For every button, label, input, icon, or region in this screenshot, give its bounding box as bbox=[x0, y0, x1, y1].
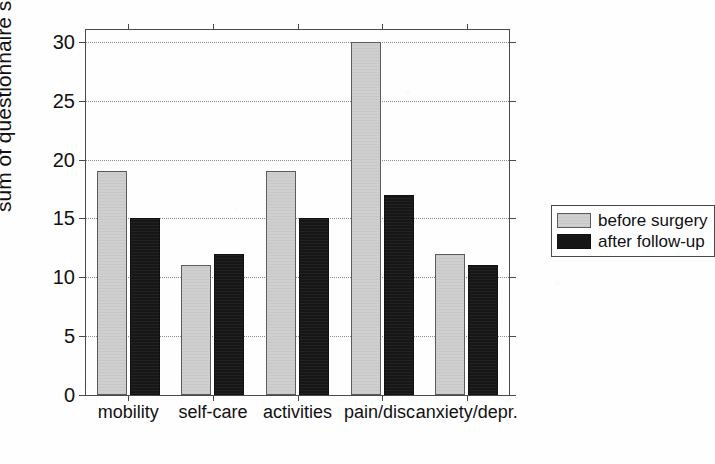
legend-entry-before-surgery: before surgery bbox=[557, 210, 708, 231]
y-axis-tick-right bbox=[509, 336, 516, 337]
x-axis-tick-top bbox=[128, 24, 129, 30]
bar-mobility-before bbox=[97, 171, 127, 395]
x-axis-tick-top bbox=[298, 24, 299, 30]
bar-anxiety-depr--before bbox=[435, 254, 465, 395]
y-axis-tick bbox=[79, 42, 86, 43]
gridline bbox=[86, 160, 509, 161]
y-axis-tick-label: 20 bbox=[53, 148, 75, 171]
bar-self-care-before bbox=[181, 265, 211, 395]
y-axis-tick-label: 0 bbox=[64, 384, 75, 407]
x-axis-tick bbox=[467, 395, 468, 401]
x-axis-tick-label: activities bbox=[263, 402, 332, 423]
gridline bbox=[86, 42, 509, 43]
y-axis-tick-label: 5 bbox=[64, 325, 75, 348]
bar-activities-after bbox=[299, 218, 329, 395]
gridline bbox=[86, 101, 509, 102]
chart-legend: before surgery after follow-up bbox=[551, 205, 715, 257]
legend-label-before-surgery: before surgery bbox=[598, 212, 708, 230]
x-axis-tick-label: self-care bbox=[178, 402, 247, 423]
y-axis-tick-right bbox=[509, 160, 516, 161]
black-swatch-icon bbox=[557, 234, 591, 249]
light-gray-swatch-icon bbox=[557, 213, 591, 228]
y-axis-tick bbox=[79, 336, 86, 337]
y-axis-tick bbox=[79, 101, 86, 102]
x-axis-tick-top bbox=[467, 24, 468, 30]
bar-pain-disc--before bbox=[351, 42, 381, 395]
y-axis-tick-label: 15 bbox=[53, 207, 75, 230]
x-axis-tick bbox=[128, 395, 129, 401]
y-axis-title: sum of questionnaire scores bbox=[0, 0, 16, 212]
x-axis-tick-label: mobility bbox=[98, 402, 159, 423]
y-axis-tick-right bbox=[509, 42, 516, 43]
bar-anxiety-depr--after bbox=[468, 265, 498, 395]
x-axis-tick bbox=[298, 395, 299, 401]
y-axis-tick bbox=[79, 160, 86, 161]
bar-self-care-after bbox=[214, 254, 244, 395]
x-axis-tick bbox=[213, 395, 214, 401]
legend-label-after-follow-up: after follow-up bbox=[598, 233, 705, 251]
x-axis-tick-top bbox=[382, 24, 383, 30]
x-axis-tick-label: pain/disc. bbox=[344, 402, 420, 423]
bar-mobility-after bbox=[130, 218, 160, 395]
plot-area: 051015202530 mobilityself-careactivities… bbox=[85, 29, 510, 396]
y-axis-tick-label: 10 bbox=[53, 266, 75, 289]
y-axis-tick bbox=[79, 277, 86, 278]
y-axis-tick-right bbox=[509, 101, 516, 102]
y-axis-tick-right bbox=[509, 277, 516, 278]
x-axis-tick bbox=[382, 395, 383, 401]
y-axis-tick-label: 30 bbox=[53, 30, 75, 53]
bar-pain-disc--after bbox=[384, 195, 414, 395]
y-axis-tick bbox=[79, 395, 86, 396]
y-axis-tick-right bbox=[509, 218, 516, 219]
legend-entry-after-follow-up: after follow-up bbox=[557, 231, 708, 252]
x-axis-tick-top bbox=[213, 24, 214, 30]
y-axis-tick bbox=[79, 218, 86, 219]
y-axis-tick-right bbox=[509, 395, 516, 396]
x-axis-tick-label: anxiety/depr. bbox=[416, 402, 518, 423]
bar-chart-figure: sum of questionnaire scores 051015202530… bbox=[0, 0, 715, 464]
y-axis-tick-label: 25 bbox=[53, 89, 75, 112]
bar-activities-before bbox=[266, 171, 296, 395]
